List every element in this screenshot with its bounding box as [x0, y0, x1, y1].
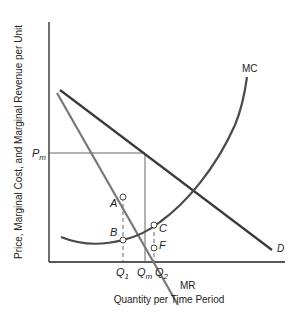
label-mr: MR — [180, 280, 196, 291]
label-b: B — [110, 226, 117, 238]
x-axis-title: Quantity per Time Period — [114, 294, 225, 305]
point-a — [120, 194, 126, 200]
label-c: C — [159, 222, 167, 234]
label-f: F — [159, 239, 167, 251]
tick-pm: Pm — [32, 147, 46, 162]
tick-q1: Q1 — [116, 266, 129, 281]
point-b — [120, 237, 126, 243]
tick-qm: Qm — [137, 266, 153, 281]
label-a: A — [109, 197, 117, 209]
point-f — [151, 245, 157, 251]
monopoly-chart: A B C F MC MR D Pm Q1 Qm Q2 Quantity per… — [0, 0, 299, 323]
label-d: D — [277, 243, 284, 254]
label-mc: MC — [242, 63, 258, 74]
point-c — [151, 222, 157, 228]
y-axis-title: Price, Marginal Cost, and Marginal Reven… — [13, 25, 24, 259]
